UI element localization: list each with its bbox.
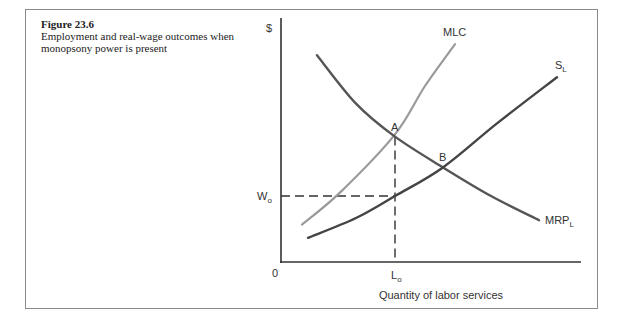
y-axis-label: $ bbox=[266, 22, 272, 34]
curve-s-l bbox=[308, 77, 557, 238]
curve-label-s-l: SL bbox=[555, 59, 567, 74]
x-axis-label: Quantity of labor services bbox=[379, 289, 504, 301]
curve-label-mrp-l: MRPL bbox=[545, 214, 574, 229]
wage-label-wo: Wo bbox=[257, 190, 272, 205]
curve-label-mlc: MLC bbox=[443, 26, 466, 38]
point-label-a: A bbox=[391, 121, 399, 133]
curve-mlc bbox=[302, 44, 455, 224]
origin-label: 0 bbox=[272, 267, 278, 279]
monopsony-chart: $ 0 Quantity of labor services WoLoMLCMR… bbox=[0, 0, 621, 322]
employment-label-lo: Lo bbox=[391, 269, 402, 284]
point-label-b: B bbox=[439, 151, 446, 163]
